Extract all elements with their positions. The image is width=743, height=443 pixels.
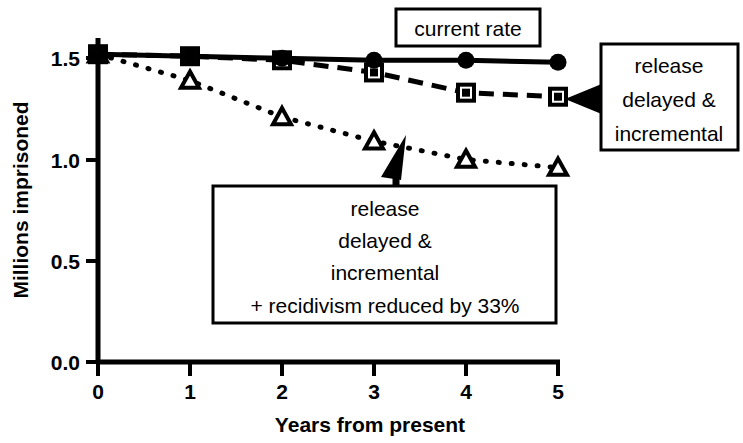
data-point-circle <box>550 54 567 71</box>
annotation-bottom-line-1: delayed & <box>338 229 431 252</box>
data-point-circle <box>90 46 107 63</box>
annotation-bottom-line-3: + recidivism reduced by 33% <box>250 294 519 317</box>
x-tick-label-5: 5 <box>552 380 564 403</box>
annotation-right-line-2: incremental <box>615 122 724 145</box>
annotation-right-line-1: delayed & <box>622 88 715 111</box>
chart-svg: 0.0 0.5 1.0 1.5 0 1 2 3 4 5 Years from p… <box>0 0 743 443</box>
x-tick-label-1: 1 <box>184 380 196 403</box>
chart-figure: 0.0 0.5 1.0 1.5 0 1 2 3 4 5 Years from p… <box>0 0 743 443</box>
annotation-bottom-line-0: release <box>351 197 420 220</box>
data-point-circle <box>182 48 199 65</box>
data-point-circle <box>274 50 291 67</box>
y-tick-label-1: 0.5 <box>51 250 81 273</box>
x-tick-label-3: 3 <box>368 380 380 403</box>
x-tick-label-4: 4 <box>460 380 472 403</box>
x-tick-label-2: 2 <box>276 380 288 403</box>
data-point-circle <box>458 52 475 69</box>
data-point-square-center <box>462 89 470 97</box>
annotation-current-rate: current rate <box>396 9 540 46</box>
annotation-right-line-0: release <box>635 54 704 77</box>
y-axis-title: Millions imprisoned <box>9 101 32 298</box>
annotation-bottom-line-2: incremental <box>331 261 440 284</box>
x-axis-title: Years from present <box>275 413 465 436</box>
y-tick-label-2: 1.0 <box>51 149 80 172</box>
data-point-square-center <box>370 68 378 76</box>
x-tick-label-0: 0 <box>92 380 104 403</box>
y-tick-label-3: 1.5 <box>51 47 81 70</box>
annotation-current-rate-line-0: current rate <box>414 17 521 40</box>
data-point-circle <box>366 52 383 69</box>
data-point-square-center <box>554 93 562 101</box>
y-tick-label-0: 0.0 <box>51 351 80 374</box>
